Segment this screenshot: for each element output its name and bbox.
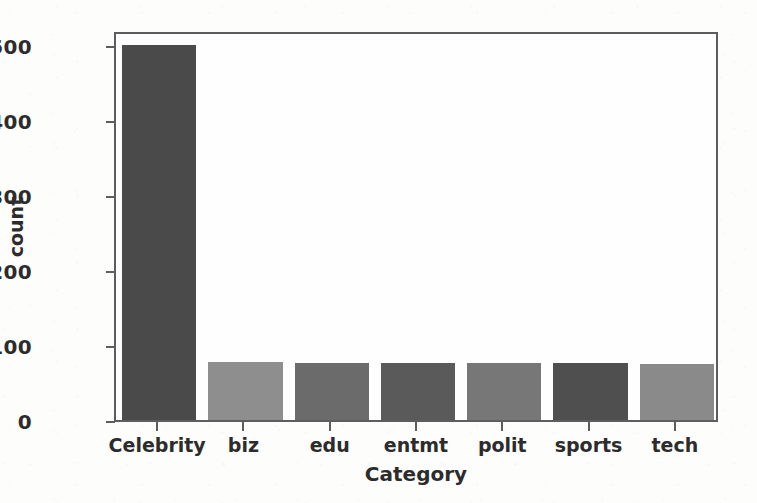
- x-tick-mark-tech: [674, 422, 676, 431]
- x-tick-label-tech: tech: [651, 434, 698, 456]
- bar-celebrity[interactable]: [122, 45, 196, 420]
- x-tick-mark-polit: [501, 422, 503, 431]
- x-tick-mark-sports: [588, 422, 590, 431]
- bar-entmt[interactable]: [381, 363, 455, 420]
- x-tick-label-edu: edu: [310, 434, 350, 456]
- x-axis-title: Category: [365, 462, 467, 486]
- x-tick-mark-celebrity: [156, 422, 158, 431]
- x-tick-mark-biz: [242, 422, 244, 431]
- bar-polit[interactable]: [467, 363, 541, 420]
- bar-sports[interactable]: [553, 363, 627, 420]
- x-tick-label-entmt: entmt: [384, 434, 448, 456]
- x-tick-mark-edu: [329, 422, 331, 431]
- x-tick-mark-entmt: [415, 422, 417, 431]
- y-tick-label-400: 400: [0, 110, 32, 134]
- bar-tech[interactable]: [640, 364, 714, 420]
- x-tick-label-biz: biz: [228, 434, 259, 456]
- y-tick-label-500: 500: [0, 35, 32, 59]
- x-tick-label-polit: polit: [478, 434, 527, 456]
- plot-axes-frame: [114, 32, 718, 422]
- bar-edu[interactable]: [295, 363, 369, 420]
- y-tick-label-100: 100: [0, 335, 32, 359]
- y-tick-label-0: 0: [0, 410, 32, 434]
- x-tick-label-celebrity: Celebrity: [109, 434, 206, 456]
- plot-area: [116, 34, 716, 420]
- y-tick-label-200: 200: [0, 260, 32, 284]
- y-axis-title: count: [5, 197, 27, 257]
- x-tick-label-sports: sports: [555, 434, 623, 456]
- bar-chart-figure: 0100200300400500 count Celebritybizeduen…: [0, 0, 757, 503]
- bar-biz[interactable]: [208, 362, 282, 421]
